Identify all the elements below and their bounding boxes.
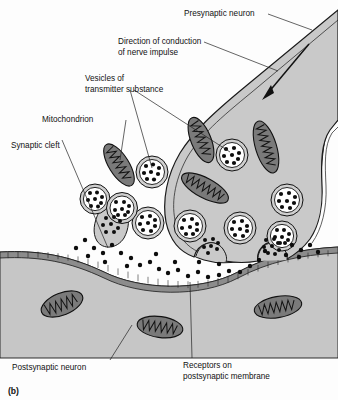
panel-label: (b) [8,386,19,396]
label-presynaptic-neuron: Presynaptic neuron [184,9,255,18]
label-receptors-line2: postsynaptic membrane [183,372,270,381]
label-direction-line1: Direction of conduction [118,37,202,46]
label-vesicles-line2: transmitter substance [85,85,164,94]
label-vesicles-line1: Vesicles of [85,74,125,83]
label-mitochondrion: Mitochondrion [42,115,94,124]
label-synaptic-cleft: Synaptic cleft [11,141,60,150]
label-receptors-line1: Receptors on [183,361,232,370]
label-postsynaptic-neuron: Postsynaptic neuron [12,363,87,372]
synapse-diagram-svg: Presynaptic neuron Direction of conducti… [0,0,338,400]
synapse-diagram-figure: Presynaptic neuron Direction of conducti… [0,0,338,400]
label-direction-line2: of nerve impulse [118,48,179,57]
